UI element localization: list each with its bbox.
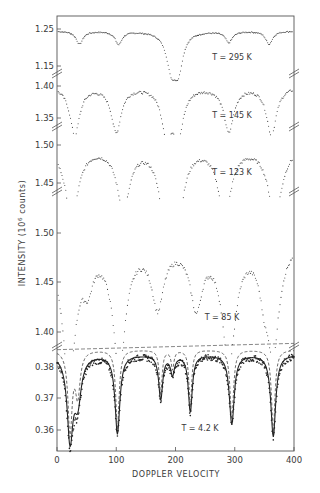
data-point [201,296,202,297]
data-point [218,98,219,99]
data-point [289,355,291,357]
data-point [90,33,91,34]
data-point [74,343,75,344]
data-point [104,96,105,97]
panel-3: T = 85 K [58,258,293,355]
data-point [137,164,138,165]
data-point [252,274,253,275]
data-point [89,296,90,297]
data-point [264,37,265,38]
data-point [209,277,210,278]
data-point [225,124,226,125]
data-point [172,266,173,267]
data-point [135,93,136,94]
data-point [102,278,103,279]
data-point [84,301,85,302]
data-point [242,32,243,33]
data-point [115,182,116,183]
data-point [177,264,178,265]
data-point [262,314,263,315]
data-point [292,160,293,161]
data-point [261,100,262,101]
data-point [247,274,248,275]
data-point [112,35,113,36]
data-point [170,77,171,78]
data-point [249,361,251,363]
data-point [60,308,61,309]
data-point [261,33,262,34]
data-point [61,94,62,95]
data-point [158,106,159,107]
data-point [188,174,189,175]
data-point [144,269,145,270]
data-point [291,259,292,260]
data-point [278,107,279,108]
data-point [289,358,291,360]
data-point [135,33,136,34]
data-point [183,55,184,56]
data-point [224,36,225,37]
data-point [132,32,133,33]
data-point [157,187,158,188]
data-point [127,305,128,306]
data-point [76,133,77,134]
data-point [243,276,244,277]
data-point [114,174,115,175]
data-point [77,417,79,419]
data-point [185,111,186,112]
data-point [153,172,154,173]
data-point [189,100,190,101]
data-point [254,274,255,275]
data-point [205,33,206,34]
data-point [70,33,71,34]
data-point [58,91,59,92]
data-point [229,42,230,43]
data-point [187,105,188,106]
data-point [128,299,129,300]
data-point [231,353,232,354]
data-point [210,33,211,34]
data-point [85,301,86,302]
data-point [178,78,179,79]
data-point [256,96,257,97]
data-point [182,124,183,125]
data-point [194,96,195,97]
data-point [127,196,128,197]
data-point [244,32,245,33]
data-point [113,172,114,173]
data-point [160,41,161,42]
data-point [106,32,107,33]
data-point [78,123,79,124]
data-point [275,35,276,36]
data-point [226,127,227,128]
data-point [253,360,255,362]
data-point [141,93,142,94]
data-point [119,43,120,44]
data-point [86,303,87,304]
data-point [116,184,117,185]
data-point [288,32,289,33]
data-point [141,271,142,272]
data-point [143,163,144,164]
data-point [187,274,188,275]
data-point [153,300,154,301]
data-point [142,161,143,162]
data-point [184,190,185,191]
data-point [282,183,283,184]
data-point [122,38,123,39]
data-point [145,162,146,163]
data-point [147,275,148,276]
data-point [146,34,147,35]
data-point [238,32,239,33]
data-point [115,132,116,133]
data-point [279,311,280,312]
data-point [237,102,238,103]
data-point [159,40,160,41]
data-point [266,117,267,118]
data-point [209,166,210,167]
data-point [233,335,234,336]
data-point [60,313,61,314]
data-point [59,31,60,32]
data-point [89,95,90,96]
data-point [188,103,189,104]
